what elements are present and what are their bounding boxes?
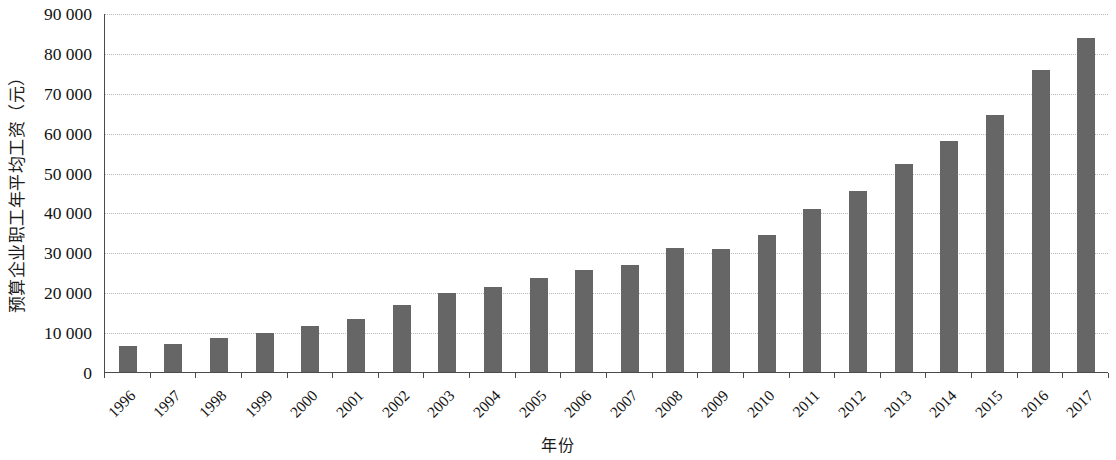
bar[interactable] bbox=[210, 338, 228, 372]
x-axis-tick-label: 1997 bbox=[144, 387, 185, 428]
x-axis-tick-label: 2011 bbox=[783, 387, 824, 428]
x-axis-tick-label: 2010 bbox=[737, 387, 778, 428]
bar[interactable] bbox=[895, 164, 913, 372]
bar[interactable] bbox=[347, 319, 365, 372]
x-axis-tick-label: 1999 bbox=[235, 387, 276, 428]
bar[interactable] bbox=[530, 278, 548, 372]
y-axis-tick-label: 20 000 bbox=[44, 283, 92, 304]
x-axis-tick-label: 2000 bbox=[281, 387, 322, 428]
x-axis-tick-label: 2001 bbox=[326, 387, 367, 428]
bar[interactable] bbox=[666, 248, 684, 372]
x-axis-tick-label: 2015 bbox=[965, 387, 1006, 428]
x-axis-tick bbox=[1108, 373, 1109, 378]
bar[interactable] bbox=[164, 344, 182, 372]
x-axis-tick-label: 2005 bbox=[509, 387, 550, 428]
x-axis-tick-label: 2007 bbox=[600, 387, 641, 428]
bar[interactable] bbox=[119, 346, 137, 372]
y-axis-tick-label: 90 000 bbox=[44, 4, 92, 25]
x-axis-tick-label: 2016 bbox=[1011, 387, 1052, 428]
x-axis-tick-label: 1998 bbox=[189, 387, 230, 428]
x-axis-tick-label: 2012 bbox=[828, 387, 869, 428]
bar[interactable] bbox=[256, 333, 274, 372]
bars-layer bbox=[105, 14, 1108, 372]
x-axis-tick-label: 1996 bbox=[98, 387, 139, 428]
bar[interactable] bbox=[301, 326, 319, 372]
x-axis-tick-labels: 1996199719981999200020012002200320042005… bbox=[104, 378, 1108, 430]
y-axis-tick-label: 0 bbox=[83, 363, 92, 384]
bar[interactable] bbox=[575, 270, 593, 372]
y-axis-tick-label: 80 000 bbox=[44, 43, 92, 64]
x-axis-tick-label: 2017 bbox=[1057, 387, 1098, 428]
bar[interactable] bbox=[484, 287, 502, 372]
y-axis-tick-label: 30 000 bbox=[44, 243, 92, 264]
y-axis-tick-label: 70 000 bbox=[44, 83, 92, 104]
x-axis-tick-label: 2014 bbox=[920, 387, 961, 428]
y-axis-tick-label: 10 000 bbox=[44, 323, 92, 344]
x-axis-tick-label: 2008 bbox=[646, 387, 687, 428]
plot-area bbox=[104, 14, 1108, 373]
x-axis-tick-label: 2004 bbox=[463, 387, 504, 428]
bar[interactable] bbox=[940, 141, 958, 372]
bar[interactable] bbox=[1032, 70, 1050, 372]
bar[interactable] bbox=[438, 293, 456, 372]
y-axis-title-text: 预算企业职工年平均工资（元） bbox=[3, 68, 28, 313]
x-axis-tick-label: 2009 bbox=[691, 387, 732, 428]
bar[interactable] bbox=[986, 115, 1004, 372]
y-axis-tick-label: 50 000 bbox=[44, 163, 92, 184]
bar[interactable] bbox=[849, 191, 867, 372]
y-axis-tick-label: 40 000 bbox=[44, 203, 92, 224]
bar[interactable] bbox=[758, 235, 776, 372]
x-axis-title: 年份 bbox=[0, 432, 1116, 456]
x-axis-tick-label: 2003 bbox=[418, 387, 459, 428]
bar-chart: 预算企业职工年平均工资（元） 010 00020 00030 00040 000… bbox=[0, 0, 1116, 460]
bar[interactable] bbox=[1077, 38, 1095, 372]
bar[interactable] bbox=[712, 249, 730, 372]
x-axis-tick-label: 2013 bbox=[874, 387, 915, 428]
x-axis-tick-label: 2002 bbox=[372, 387, 413, 428]
x-axis-tick-label: 2006 bbox=[555, 387, 596, 428]
y-axis-tick-labels: 010 00020 00030 00040 00050 00060 00070 … bbox=[26, 0, 98, 380]
bar[interactable] bbox=[621, 265, 639, 372]
bar[interactable] bbox=[393, 305, 411, 372]
bar[interactable] bbox=[803, 209, 821, 372]
y-axis-tick-label: 60 000 bbox=[44, 123, 92, 144]
